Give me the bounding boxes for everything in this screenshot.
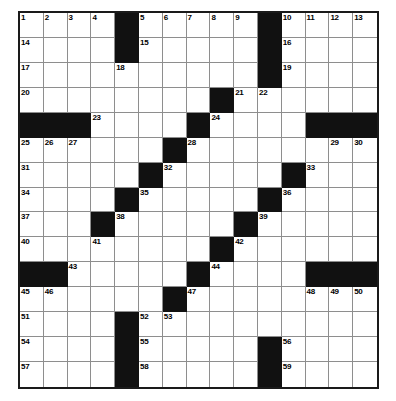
letter-cell[interactable] xyxy=(353,163,377,188)
letter-cell[interactable] xyxy=(258,262,282,287)
letter-cell[interactable] xyxy=(163,337,187,362)
letter-cell[interactable]: 13 xyxy=(353,13,377,38)
letter-cell[interactable] xyxy=(353,237,377,262)
letter-cell[interactable] xyxy=(234,287,258,312)
letter-cell[interactable] xyxy=(210,212,234,237)
letter-cell[interactable]: 41 xyxy=(91,237,115,262)
letter-cell[interactable] xyxy=(187,362,211,387)
letter-cell[interactable]: 29 xyxy=(329,138,353,163)
letter-cell[interactable]: 37 xyxy=(20,212,44,237)
letter-cell[interactable] xyxy=(306,38,330,63)
letter-cell[interactable] xyxy=(44,188,68,213)
letter-cell[interactable] xyxy=(353,63,377,88)
letter-cell[interactable] xyxy=(329,362,353,387)
letter-cell[interactable]: 31 xyxy=(20,163,44,188)
letter-cell[interactable] xyxy=(91,88,115,113)
letter-cell[interactable]: 32 xyxy=(163,163,187,188)
letter-cell[interactable] xyxy=(282,262,306,287)
letter-cell[interactable] xyxy=(187,212,211,237)
letter-cell[interactable] xyxy=(44,38,68,63)
letter-cell[interactable] xyxy=(234,312,258,337)
letter-cell[interactable] xyxy=(139,113,163,138)
letter-cell[interactable] xyxy=(306,88,330,113)
letter-cell[interactable] xyxy=(44,312,68,337)
letter-cell[interactable]: 40 xyxy=(20,237,44,262)
letter-cell[interactable] xyxy=(187,88,211,113)
letter-cell[interactable] xyxy=(234,163,258,188)
letter-cell[interactable]: 3 xyxy=(68,13,92,38)
letter-cell[interactable] xyxy=(210,337,234,362)
letter-cell[interactable] xyxy=(258,312,282,337)
letter-cell[interactable] xyxy=(163,212,187,237)
letter-cell[interactable] xyxy=(163,88,187,113)
letter-cell[interactable] xyxy=(187,188,211,213)
letter-cell[interactable] xyxy=(139,212,163,237)
letter-cell[interactable] xyxy=(91,38,115,63)
letter-cell[interactable] xyxy=(187,163,211,188)
letter-cell[interactable] xyxy=(44,63,68,88)
letter-cell[interactable]: 24 xyxy=(210,113,234,138)
letter-cell[interactable] xyxy=(163,262,187,287)
letter-cell[interactable] xyxy=(91,188,115,213)
letter-cell[interactable]: 49 xyxy=(329,287,353,312)
letter-cell[interactable] xyxy=(306,337,330,362)
letter-cell[interactable]: 44 xyxy=(210,262,234,287)
letter-cell[interactable] xyxy=(139,63,163,88)
letter-cell[interactable] xyxy=(187,337,211,362)
letter-cell[interactable]: 54 xyxy=(20,337,44,362)
letter-cell[interactable]: 10 xyxy=(282,13,306,38)
letter-cell[interactable]: 43 xyxy=(68,262,92,287)
letter-cell[interactable] xyxy=(210,163,234,188)
letter-cell[interactable] xyxy=(306,63,330,88)
letter-cell[interactable]: 33 xyxy=(306,163,330,188)
letter-cell[interactable]: 53 xyxy=(163,312,187,337)
letter-cell[interactable]: 22 xyxy=(258,88,282,113)
letter-cell[interactable] xyxy=(306,138,330,163)
letter-cell[interactable] xyxy=(91,63,115,88)
letter-cell[interactable]: 4 xyxy=(91,13,115,38)
letter-cell[interactable]: 48 xyxy=(306,287,330,312)
letter-cell[interactable] xyxy=(329,312,353,337)
letter-cell[interactable] xyxy=(306,362,330,387)
letter-cell[interactable] xyxy=(353,337,377,362)
letter-cell[interactable]: 1 xyxy=(20,13,44,38)
letter-cell[interactable] xyxy=(329,38,353,63)
letter-cell[interactable] xyxy=(91,337,115,362)
letter-cell[interactable] xyxy=(139,88,163,113)
letter-cell[interactable] xyxy=(282,212,306,237)
letter-cell[interactable] xyxy=(115,88,139,113)
letter-cell[interactable] xyxy=(68,212,92,237)
letter-cell[interactable]: 46 xyxy=(44,287,68,312)
letter-cell[interactable] xyxy=(68,312,92,337)
letter-cell[interactable] xyxy=(329,88,353,113)
letter-cell[interactable] xyxy=(163,362,187,387)
letter-cell[interactable]: 6 xyxy=(163,13,187,38)
letter-cell[interactable] xyxy=(187,237,211,262)
letter-cell[interactable] xyxy=(115,113,139,138)
letter-cell[interactable]: 42 xyxy=(234,237,258,262)
letter-cell[interactable] xyxy=(306,212,330,237)
letter-cell[interactable] xyxy=(234,362,258,387)
letter-cell[interactable] xyxy=(234,138,258,163)
letter-cell[interactable] xyxy=(210,312,234,337)
letter-cell[interactable] xyxy=(282,113,306,138)
letter-cell[interactable] xyxy=(91,362,115,387)
letter-cell[interactable]: 59 xyxy=(282,362,306,387)
letter-cell[interactable] xyxy=(68,337,92,362)
letter-cell[interactable] xyxy=(91,138,115,163)
letter-cell[interactable] xyxy=(115,163,139,188)
letter-cell[interactable]: 27 xyxy=(68,138,92,163)
letter-cell[interactable]: 9 xyxy=(234,13,258,38)
letter-cell[interactable] xyxy=(68,63,92,88)
letter-cell[interactable] xyxy=(282,237,306,262)
letter-cell[interactable] xyxy=(353,38,377,63)
letter-cell[interactable] xyxy=(210,63,234,88)
letter-cell[interactable]: 12 xyxy=(329,13,353,38)
letter-cell[interactable]: 20 xyxy=(20,88,44,113)
letter-cell[interactable] xyxy=(258,237,282,262)
letter-cell[interactable]: 25 xyxy=(20,138,44,163)
letter-cell[interactable] xyxy=(329,212,353,237)
letter-cell[interactable]: 17 xyxy=(20,63,44,88)
letter-cell[interactable]: 28 xyxy=(187,138,211,163)
letter-cell[interactable] xyxy=(353,362,377,387)
